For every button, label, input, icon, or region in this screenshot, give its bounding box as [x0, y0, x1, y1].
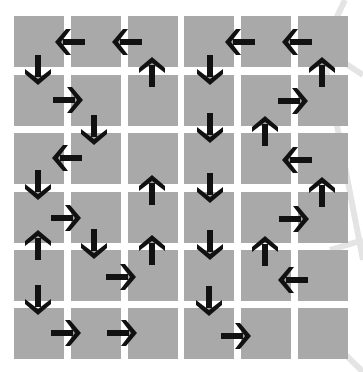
arrow-left-icon	[280, 143, 314, 177]
arrow-down-icon	[21, 53, 55, 87]
arrow-left-icon	[276, 263, 310, 297]
arrow-left-icon	[223, 25, 257, 59]
arrow-up-icon	[248, 114, 282, 148]
arrow-down-icon	[193, 228, 227, 262]
arrow-down-icon	[21, 283, 55, 317]
arrow-right-icon	[104, 260, 138, 294]
arrow-down-icon	[193, 111, 227, 145]
arrow-left-icon	[50, 141, 84, 175]
arrow-up-icon	[135, 173, 169, 207]
arrow-down-icon	[21, 168, 55, 202]
arrow-right-icon	[276, 84, 310, 118]
arrow-right-icon	[105, 316, 139, 350]
arrow-right-icon	[49, 316, 83, 350]
arrow-down-icon	[193, 53, 227, 87]
arrow-up-icon	[21, 228, 55, 262]
arrow-right-icon	[219, 319, 253, 353]
arrow-up-icon	[135, 55, 169, 89]
arrow-right-icon	[51, 83, 85, 117]
grid-cell	[298, 308, 348, 359]
arrow-left-icon	[110, 25, 144, 59]
arrow-down-icon	[192, 284, 226, 318]
arrow-down-icon	[193, 171, 227, 205]
arrow-left-icon	[53, 25, 87, 59]
arrow-up-icon	[305, 55, 339, 89]
arrow-left-icon	[280, 25, 314, 59]
arrow-up-icon	[135, 233, 169, 267]
arrow-down-icon	[77, 227, 111, 261]
arrow-right-icon	[277, 202, 311, 236]
